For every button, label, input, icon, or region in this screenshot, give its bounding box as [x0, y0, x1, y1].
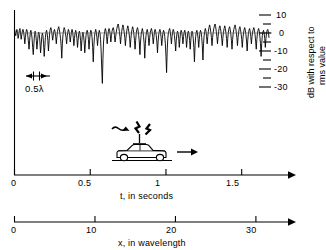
- db-tick-label-m10: -10: [274, 47, 288, 56]
- time-tick-label-05: 0.5: [78, 179, 91, 188]
- direction-of-travel-arrowhead: [191, 149, 198, 156]
- scattered-ray-2: [146, 124, 151, 135]
- wavelength-tick-label-30: 30: [246, 226, 256, 235]
- time-tick-label-15: 1.5: [226, 179, 239, 188]
- car-roof-detail: [133, 143, 146, 145]
- db-tick-label-0: 0: [279, 29, 284, 38]
- time-tick-label-1: 1: [155, 179, 160, 188]
- half-wavelength-label: 0.5λ: [25, 84, 44, 93]
- db-tick-label-m30: -30: [274, 83, 288, 92]
- wavelength-tick-label-20: 20: [166, 226, 176, 235]
- time-tick-label-0: 0: [11, 179, 16, 188]
- db-axis-title-line2: rms value: [318, 46, 326, 85]
- wavelength-tick-label-0: 0: [11, 226, 16, 235]
- db-axis-title-line1: dB with respect to: [307, 26, 316, 98]
- db-tick-label-10: 10: [276, 11, 286, 20]
- figure-root: 10 0 -10 -20 -30 dB with respect to rms …: [0, 0, 326, 250]
- car-rear-wheel: [120, 154, 127, 160]
- car-illustration: [112, 122, 198, 161]
- time-axis-arrowhead: [288, 171, 296, 178]
- wavelength-axis-title: x, in wavelength: [118, 239, 186, 248]
- figure-canvas: [0, 0, 326, 250]
- time-axis-ticks: [15, 169, 242, 175]
- time-axis-title: t, in seconds: [120, 192, 173, 201]
- scattered-ray-1: [136, 122, 140, 134]
- db-tick-label-m20: -20: [274, 65, 288, 74]
- db-axis-ticks: [259, 15, 271, 87]
- car-front-wheel: [156, 154, 163, 160]
- half-wavelength-marker: [26, 72, 50, 81]
- half-wavelength-arrow-left: [26, 73, 32, 78]
- wavelength-tick-label-10: 10: [86, 226, 96, 235]
- wavelength-axis-arrowhead: [288, 218, 296, 225]
- wavelength-axis-ticks: [15, 216, 256, 222]
